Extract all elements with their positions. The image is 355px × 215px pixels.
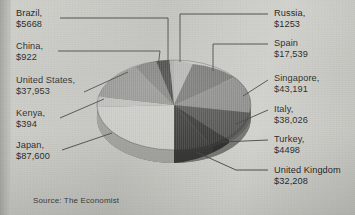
label-italy-value: $38,026 — [274, 115, 308, 126]
label-united-states: United States, $37,953 — [16, 75, 75, 96]
label-spain-value: $17,539 — [274, 49, 308, 60]
label-japan-name: Japan, — [16, 140, 50, 151]
label-united-kingdom: United Kingdom $32,208 — [274, 165, 341, 186]
label-italy-name: Italy, — [274, 104, 308, 115]
label-spain-name: Spain — [274, 38, 308, 49]
label-japan: Japan, $87,600 — [16, 140, 50, 161]
label-united-kingdom-name: United Kingdom — [274, 165, 341, 176]
label-singapore-name: Singapore, — [274, 73, 319, 84]
leader-china — [58, 51, 160, 63]
label-russia-name: Russia, — [274, 8, 305, 19]
label-china-value: $922 — [16, 52, 43, 63]
leader-brazil — [60, 18, 168, 62]
label-brazil-name: Brazil, — [16, 8, 42, 19]
label-kenya: Kenya, $394 — [16, 108, 45, 129]
label-brazil-value: $5668 — [16, 19, 42, 30]
label-italy: Italy, $38,026 — [274, 104, 308, 125]
label-kenya-value: $394 — [16, 119, 45, 130]
label-united-states-name: United States, — [16, 75, 75, 86]
label-singapore: Singapore, $43,191 — [274, 73, 319, 94]
leader-russia — [180, 14, 268, 62]
label-russia-value: $1253 — [274, 19, 305, 30]
label-united-kingdom-value: $32,208 — [274, 176, 341, 187]
label-japan-value: $87,600 — [16, 151, 50, 162]
label-turkey-value: $4498 — [274, 145, 304, 156]
label-kenya-name: Kenya, — [16, 108, 45, 119]
scanned-chart-page: Brazil, $5668 China, $922 United States,… — [0, 0, 355, 215]
leader-spain — [213, 44, 268, 71]
label-china: China, $922 — [16, 41, 43, 62]
label-singapore-value: $43,191 — [274, 84, 319, 95]
label-spain: Spain $17,539 — [274, 38, 308, 59]
label-brazil: Brazil, $5668 — [16, 8, 42, 29]
label-united-states-value: $37,953 — [16, 86, 75, 97]
label-turkey-name: Turkey, — [274, 134, 304, 145]
pie-top-face — [97, 60, 251, 150]
label-turkey: Turkey, $4498 — [274, 134, 304, 155]
label-russia: Russia, $1253 — [274, 8, 305, 29]
label-china-name: China, — [16, 41, 43, 52]
source-note: Source: The Economist — [33, 196, 119, 205]
